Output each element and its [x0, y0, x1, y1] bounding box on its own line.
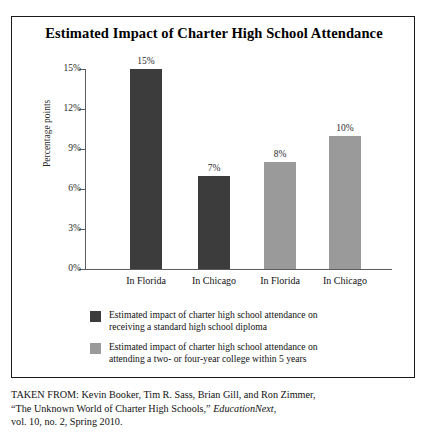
chart-legend: Estimated impact of charter high school …	[90, 309, 390, 373]
bar-value-label: 10%	[325, 123, 365, 133]
x-axis-line	[85, 269, 392, 270]
bar-value-label: 8%	[260, 149, 300, 159]
plot-area: 0%3%6%9%12%15% 15%7%8%10%	[85, 69, 392, 270]
legend-swatch	[90, 311, 101, 322]
x-category-label: In Florida	[243, 275, 317, 286]
legend-label-line-1: Estimated impact of charter high school …	[109, 341, 318, 353]
legend-swatch	[90, 343, 101, 354]
bar-1	[130, 69, 162, 269]
legend-label-line-2: receiving a standard high school diploma	[109, 321, 318, 333]
y-axis-line	[85, 69, 86, 270]
y-tick-label: 15%	[35, 63, 81, 73]
source-citation: TAKEN FROM: Kevin Booker, Tim R. Sass, B…	[11, 388, 423, 429]
citation-line-3: vol. 10, no. 2, Spring 2010.	[11, 415, 423, 429]
legend-label: Estimated impact of charter high school …	[109, 341, 318, 364]
citation-comma: ,	[274, 403, 277, 414]
x-category-label: In Florida	[109, 275, 183, 286]
citation-title: “The Unknown World of Charter High Schoo…	[11, 403, 213, 414]
x-category-label: In Chicago	[308, 275, 382, 286]
legend-label-line-2: attending a two- or four-year college wi…	[109, 353, 318, 365]
y-axis-title: Percentage points	[42, 100, 52, 167]
y-tick-label: 3%	[35, 223, 81, 233]
chart-frame: Estimated Impact of Charter High School …	[11, 16, 415, 378]
bar-2	[198, 176, 230, 269]
bar-4	[329, 136, 361, 269]
x-category-label: In Chicago	[177, 275, 251, 286]
figure-page: Estimated Impact of Charter High School …	[0, 0, 429, 445]
citation-publication: EducationNext	[213, 403, 274, 414]
legend-label: Estimated impact of charter high school …	[109, 309, 318, 332]
bar-value-label: 7%	[194, 163, 234, 173]
citation-line-1: TAKEN FROM: Kevin Booker, Tim R. Sass, B…	[11, 388, 423, 402]
legend-item-2: Estimated impact of charter high school …	[90, 341, 390, 364]
y-tick-label: 0%	[35, 263, 81, 273]
legend-label-line-1: Estimated impact of charter high school …	[109, 309, 318, 321]
bar-value-label: 15%	[126, 56, 166, 66]
citation-line-2: “The Unknown World of Charter High Schoo…	[11, 402, 423, 416]
y-tick-label: 6%	[35, 183, 81, 193]
chart-title: Estimated Impact of Charter High School …	[12, 25, 416, 42]
bar-3	[264, 162, 296, 269]
legend-item-1: Estimated impact of charter high school …	[90, 309, 390, 332]
